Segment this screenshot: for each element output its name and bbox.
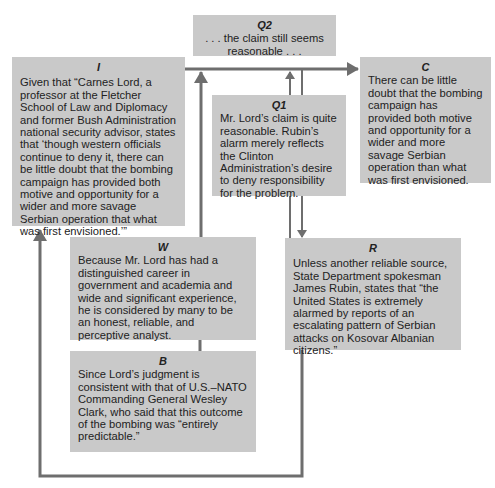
node-q1-qualifier: Q1 Mr. Lord’s claim is quite reasonable.… bbox=[212, 95, 346, 196]
node-q2-qualifier: Q2 . . . the claim still seems reasonabl… bbox=[193, 15, 336, 56]
node-label: Q2 bbox=[201, 19, 328, 31]
node-label: C bbox=[368, 61, 483, 73]
node-label: B bbox=[78, 355, 248, 367]
node-label: Q1 bbox=[220, 99, 338, 111]
node-text: Unless another reliable source, State De… bbox=[293, 257, 453, 356]
node-c-claim: C There can be little doubt that the bom… bbox=[360, 57, 491, 183]
node-w-warrant: W Because Mr. Lord has had a distinguish… bbox=[70, 237, 256, 340]
node-r-rebuttal: R Unless another reliable source, State … bbox=[285, 238, 461, 350]
node-label: I bbox=[20, 61, 177, 73]
node-i-data: I Given that “Carnes Lord, a professor a… bbox=[12, 57, 185, 226]
node-label: R bbox=[293, 242, 453, 254]
node-b-backing: B Since Lord’s judgment is consistent wi… bbox=[70, 351, 256, 452]
node-text: Because Mr. Lord has had a distinguished… bbox=[78, 254, 248, 341]
node-text: Mr. Lord’s claim is quite reasonable. Ru… bbox=[220, 112, 338, 199]
node-text: Since Lord’s judgment is consistent with… bbox=[78, 368, 248, 442]
node-text: Given that “Carnes Lord, a professor at … bbox=[20, 76, 177, 237]
node-text: . . . the claim still seems reasonable .… bbox=[201, 32, 328, 57]
node-text: There can be little doubt that the bombi… bbox=[368, 74, 483, 186]
node-label: W bbox=[78, 241, 248, 253]
